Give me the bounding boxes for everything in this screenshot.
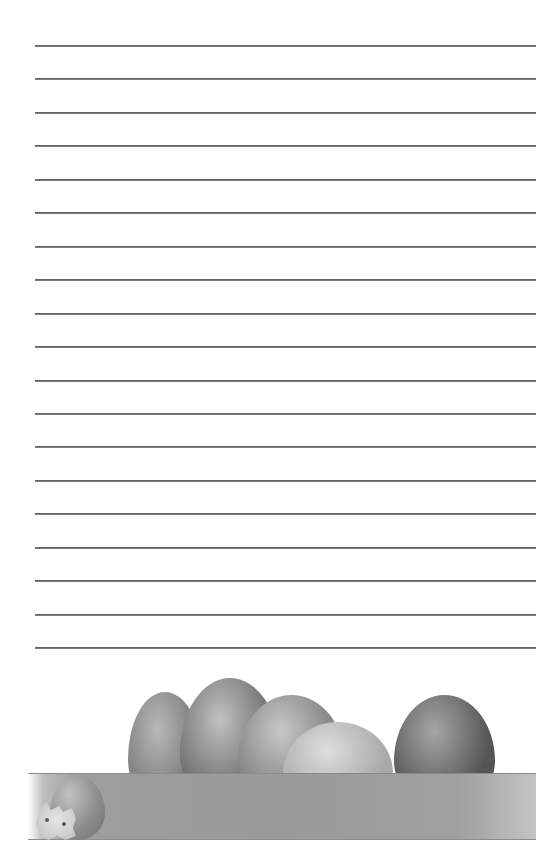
ruled-line [35,145,536,147]
ruled-line [35,513,536,515]
ruled-line [35,78,536,80]
ruled-line [35,179,536,181]
ruled-line [35,480,536,482]
ruled-line [35,580,536,582]
ruled-line [35,380,536,382]
ruled-line [35,446,536,448]
ruled-line [35,112,536,114]
ruled-line [35,279,536,281]
ruled-line [35,212,536,214]
ruled-line [35,413,536,415]
ruled-line [35,647,536,649]
ruled-line [35,614,536,616]
ruled-line [35,246,536,248]
chick-eye-icon [45,818,49,822]
ruled-line [35,346,536,348]
ruled-line [35,45,536,47]
ruled-line [35,313,536,315]
notepaper-page [0,0,536,864]
easter-egg-decoration [0,660,536,864]
chick-eye-icon [62,822,66,826]
ruled-line [35,547,536,549]
